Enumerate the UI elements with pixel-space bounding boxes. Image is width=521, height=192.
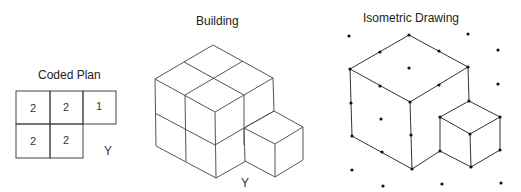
- plan-cell-r0c1: 2: [63, 101, 69, 113]
- diagram-canvas: 2 2 1 2 2 Y Y: [0, 0, 521, 192]
- plan-cell-r1c1: 2: [63, 134, 69, 146]
- isometric-drawing: [350, 35, 500, 169]
- isometric-dot-grid: [347, 32, 502, 187]
- plan-cell-r0c2: 1: [96, 100, 102, 112]
- plan-cell-r0c0: 2: [30, 102, 36, 114]
- plan-y-label: Y: [104, 144, 112, 158]
- plan-cell-r1c0: 2: [30, 135, 36, 147]
- building-drawing: [155, 45, 303, 178]
- building-y-label: Y: [241, 176, 249, 190]
